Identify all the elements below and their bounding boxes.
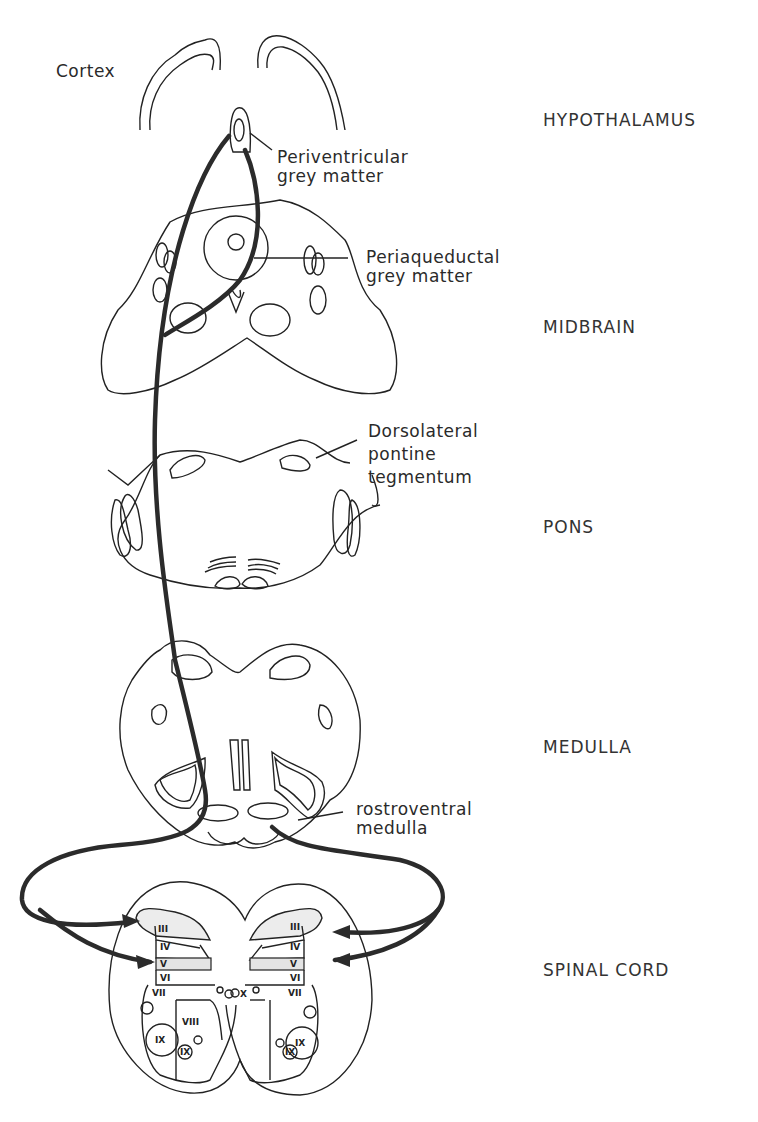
spinal-cord-drawing: III IV V VI VII VIII IX IX III IV V VI V…	[109, 882, 372, 1095]
arrowhead-icon	[332, 925, 350, 939]
region-medulla: MEDULLA	[543, 737, 632, 757]
medulla-drawing	[120, 641, 360, 848]
periventricular-label: Periventricular grey matter	[277, 148, 408, 186]
arrowhead-icon	[332, 953, 350, 967]
region-spinal-cord: SPINAL CORD	[543, 960, 669, 980]
lamina-label: VIII	[182, 1017, 199, 1027]
lamina-label: X	[240, 989, 247, 999]
lamina-label: IX	[155, 1035, 165, 1045]
region-hypothalamus: HYPOTHALAMUS	[543, 110, 696, 130]
periaqueductal-label: Periaqueductal grey matter	[366, 248, 500, 286]
lamina-label: IX	[295, 1038, 305, 1048]
lamina-label: IV	[290, 942, 300, 952]
region-midbrain: MIDBRAIN	[543, 317, 636, 337]
cortex-drawing	[140, 36, 345, 130]
lamina-label: IX	[285, 1047, 295, 1057]
cortex-label: Cortex	[56, 62, 115, 81]
rostroventral-label: rostroventral medulla	[356, 800, 472, 838]
pons-drawing	[108, 440, 380, 589]
lamina-label: V	[160, 959, 167, 969]
midbrain-drawing	[101, 200, 396, 394]
lamina-label: III	[158, 924, 168, 934]
dorsolateral-label: Dorsolateral pontine tegmentum	[368, 420, 478, 489]
lamina-label: VI	[290, 973, 300, 983]
lamina-label: IV	[160, 942, 170, 952]
region-pons: PONS	[543, 517, 594, 537]
lamina-label: VI	[160, 973, 170, 983]
lamina-label: III	[290, 922, 300, 932]
arrowhead-icon	[136, 955, 155, 969]
lamina-label: V	[290, 959, 297, 969]
lamina-label: VII	[152, 988, 166, 998]
hypothalamus-drawing	[230, 108, 272, 152]
lamina-label: IX	[180, 1047, 190, 1057]
lamina-label: VII	[288, 988, 302, 998]
